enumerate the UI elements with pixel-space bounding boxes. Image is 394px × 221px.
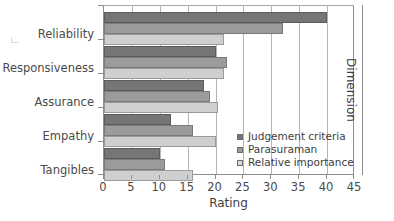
y-tick-label-empathy: Empathy [0,130,94,142]
x-tick-mark [353,175,354,179]
bar-tangibles-judgement-criteria [104,148,160,159]
bar-reliability-parasuraman [104,23,283,34]
x-axis-title: Rating [103,196,354,210]
y-tick-label-responsiveness: Responsiveness [0,62,94,74]
bar-assurance-relative-importance [104,102,218,113]
bar-assurance-parasuraman [104,91,210,102]
x-axis-labels: 0 5 10 15 20 25 30 35 40 45 [0,180,394,196]
dimension-axis-line [362,5,363,175]
x-tick-mark [242,175,243,179]
y-tick-label-reliability: Reliability [0,28,94,40]
bar-empathy-judgement-criteria [104,114,171,125]
x-tick-label-10: 10 [151,180,166,194]
legend-label: Relative importance [248,156,354,169]
x-tick-mark [270,175,271,179]
y-axis-title: Dimension [340,5,362,175]
x-tick-mark [215,175,216,179]
legend-swatch-icon [237,134,243,140]
y-tick-label-assurance: Assurance [0,96,94,108]
x-tick-mark [187,175,188,179]
bar-reliability-relative-importance [104,34,224,45]
x-tick-mark [131,175,132,179]
x-tick-mark [159,175,160,179]
x-tick-label-45: 45 [347,180,362,194]
legend-swatch-icon [237,160,243,166]
plot-area: Judgement criteria Parasuraman Relative … [103,5,354,175]
bar-empathy-parasuraman [104,125,193,136]
x-tick-label-20: 20 [207,180,222,194]
x-tick-label-5: 5 [127,180,134,194]
x-tick-label-0: 0 [99,180,106,194]
x-tick-label-25: 25 [235,180,250,194]
bar-tangibles-parasuraman [104,159,165,170]
y-tick-label-tangibles: Tangibles [0,164,94,176]
bar-assurance-judgement-criteria [104,80,204,91]
bar-responsiveness-relative-importance [104,68,224,79]
legend-label: Parasuraman [248,143,317,156]
x-tick-label-15: 15 [179,180,194,194]
x-tick-mark [326,175,327,179]
legend-label: Judgement criteria [248,130,346,143]
y-axis-category-labels: Reliability Responsiveness Assurance Emp… [0,5,99,175]
bar-responsiveness-judgement-criteria [104,46,216,57]
x-tick-mark [298,175,299,179]
legend-swatch-icon [237,147,243,153]
x-tick-label-35: 35 [291,180,306,194]
bar-chart: Reliability Responsiveness Assurance Emp… [0,0,394,221]
x-tick-label-40: 40 [319,180,334,194]
x-tick-label-30: 30 [263,180,278,194]
x-tick-mark [103,175,104,179]
bar-reliability-judgement-criteria [104,12,327,23]
bar-empathy-relative-importance [104,136,216,147]
bar-responsiveness-parasuraman [104,57,227,68]
